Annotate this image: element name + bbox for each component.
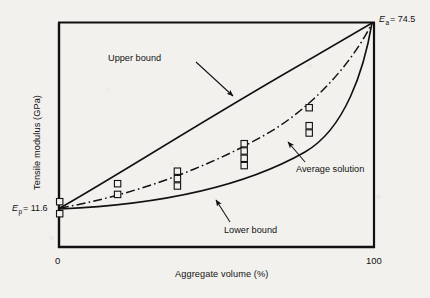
annotation-lower-bound: Lower bound bbox=[224, 225, 277, 235]
ep-subscript: p bbox=[19, 208, 23, 216]
annotation-upper-bound: Upper bound bbox=[108, 53, 161, 63]
data-marker bbox=[57, 199, 63, 205]
ea-value: = 74.5 bbox=[390, 14, 415, 24]
label-aggregate-modulus: E a = 74.5 bbox=[379, 14, 415, 26]
data-marker bbox=[241, 141, 247, 147]
data-marker bbox=[241, 148, 247, 154]
label-matrix-modulus: E p = 11.6 bbox=[12, 203, 48, 216]
curve-upper-bound bbox=[60, 23, 372, 208]
plot-frame bbox=[58, 23, 375, 249]
figure-container: Upper bound Average solution Lower bound… bbox=[0, 0, 430, 298]
scatter-markers bbox=[57, 105, 313, 217]
y-axis-label: Tensile modulus (GPa) bbox=[32, 95, 42, 190]
x-tick-0: 0 bbox=[55, 255, 60, 266]
x-tick-100: 100 bbox=[366, 255, 382, 266]
data-marker bbox=[174, 183, 180, 189]
data-marker bbox=[174, 168, 180, 174]
data-marker bbox=[114, 191, 120, 197]
data-marker bbox=[57, 211, 63, 217]
x-axis-label: Aggregate volume (%) bbox=[175, 269, 268, 279]
data-marker bbox=[241, 155, 247, 161]
data-marker bbox=[306, 105, 312, 111]
data-marker bbox=[174, 175, 180, 181]
ea-subscript: a bbox=[386, 19, 390, 26]
leader-arrows bbox=[196, 62, 305, 222]
chart-svg: Upper bound Average solution Lower bound… bbox=[0, 0, 430, 298]
data-marker bbox=[306, 130, 312, 136]
data-marker bbox=[241, 162, 247, 168]
upper-bound-leader bbox=[196, 62, 233, 96]
annotation-average-solution: Average solution bbox=[296, 164, 364, 174]
data-marker bbox=[306, 123, 312, 129]
lower-bound-leader bbox=[216, 200, 230, 222]
data-marker bbox=[114, 181, 120, 187]
ep-value: = 11.6 bbox=[23, 203, 48, 213]
